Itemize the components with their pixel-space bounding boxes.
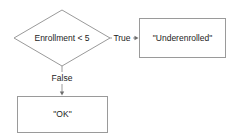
flowchart-canvas: True False Enrollment < 5 "Underenrolled…	[0, 0, 235, 139]
node-false-result[interactable]: "OK"	[18, 97, 108, 133]
edge-true-label: True	[113, 33, 130, 43]
true-result-label: "Underenrolled"	[153, 33, 212, 43]
edge-false-label: False	[52, 73, 73, 83]
flowchart-svg: True False Enrollment < 5 "Underenrolled…	[0, 0, 235, 139]
decision-label: Enrollment < 5	[34, 33, 89, 43]
node-true-result[interactable]: "Underenrolled"	[140, 19, 226, 58]
edge-false-arrowhead-icon	[60, 92, 64, 96]
edge-true-arrowhead-icon	[135, 36, 139, 40]
node-decision[interactable]: Enrollment < 5	[14, 10, 110, 66]
edge-false: False	[52, 66, 73, 96]
edge-true: True	[110, 33, 139, 43]
false-result-label: "OK"	[53, 109, 71, 119]
